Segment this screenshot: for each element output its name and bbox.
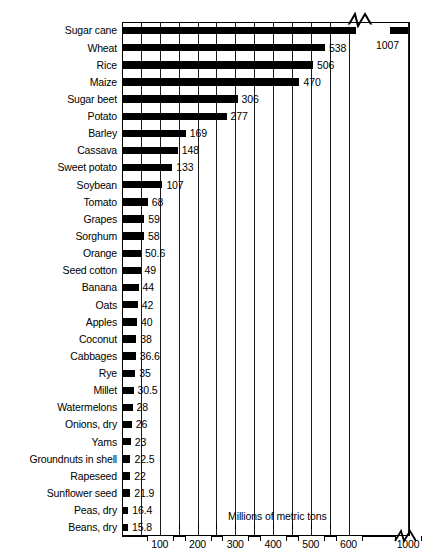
axis-tick-label: 400 bbox=[253, 539, 293, 550]
bar-value-label: 306 bbox=[242, 94, 259, 105]
bar-value-label: 22 bbox=[134, 471, 145, 482]
axis-tick-label: 100 bbox=[140, 539, 180, 550]
category-label: Sugar beet bbox=[67, 94, 117, 105]
bar-value-label: 22.5 bbox=[134, 454, 154, 465]
axis-minor-tick bbox=[273, 523, 274, 529]
bar bbox=[122, 472, 130, 479]
bar-value-label: 21.9 bbox=[134, 488, 154, 499]
bar bbox=[122, 370, 135, 377]
bar-value-label: 38 bbox=[140, 334, 151, 345]
bar-value-label: 538 bbox=[329, 43, 346, 54]
category-label: Oats bbox=[95, 300, 117, 311]
category-axis-labels: Sugar caneWheatRiceMaizeSugar beetPotato… bbox=[0, 22, 117, 536]
category-label: Peas, dry bbox=[74, 505, 117, 516]
bar bbox=[122, 301, 138, 308]
bar bbox=[122, 455, 130, 462]
axis-segment bbox=[324, 536, 336, 537]
axis-minor-tick bbox=[198, 523, 199, 529]
bar-value-label: 58 bbox=[148, 231, 159, 242]
bar bbox=[122, 438, 131, 445]
category-label: Groundnuts in shell bbox=[29, 454, 117, 465]
axis-segment bbox=[286, 536, 298, 537]
bar bbox=[122, 181, 162, 188]
axis-break-icon-bottom bbox=[393, 529, 419, 543]
bar bbox=[122, 318, 137, 325]
bar bbox=[122, 232, 144, 239]
axis-minor-tick bbox=[235, 523, 236, 529]
category-label: Onions, dry bbox=[65, 419, 117, 430]
bar-value-label: 23 bbox=[135, 437, 146, 448]
gridline-550 bbox=[330, 22, 331, 536]
category-label: Cabbages bbox=[70, 351, 117, 362]
bar bbox=[122, 215, 144, 222]
bar bbox=[122, 44, 325, 51]
bar-value-label: 44 bbox=[143, 282, 154, 293]
bar bbox=[122, 335, 136, 342]
bar-value-label: 133 bbox=[176, 162, 193, 173]
category-label: Cassava bbox=[77, 145, 117, 156]
axis-title: Millions of metric tons bbox=[228, 511, 327, 522]
category-label: Tomato bbox=[83, 197, 117, 208]
axis-tick-label: 600 bbox=[329, 539, 369, 550]
bar-value-label: 107 bbox=[166, 180, 183, 191]
bar bbox=[122, 421, 132, 428]
bar-value-label: 30.5 bbox=[138, 385, 158, 396]
bar-value-label: 169 bbox=[190, 128, 207, 139]
bar bbox=[122, 524, 128, 531]
bar bbox=[122, 404, 133, 411]
category-label: Grapes bbox=[83, 214, 117, 225]
bar bbox=[122, 130, 186, 137]
axis-minor-tick bbox=[254, 523, 255, 529]
bar-value-label: 470 bbox=[303, 77, 320, 88]
gridline-400 bbox=[273, 22, 274, 536]
bar-value-label: 59 bbox=[148, 214, 159, 225]
category-label: Sweet potato bbox=[58, 162, 118, 173]
axis-minor-tick bbox=[311, 523, 312, 529]
category-label: Rapeseed bbox=[70, 471, 117, 482]
bar-value-label: 1007 bbox=[376, 40, 399, 51]
category-label: Coconut bbox=[79, 334, 117, 345]
category-label: Beans, dry bbox=[68, 522, 117, 533]
bar bbox=[122, 147, 178, 154]
bar-value-label: 26 bbox=[136, 419, 147, 430]
category-label: Sugar cane bbox=[65, 25, 117, 36]
gridline-450 bbox=[292, 22, 293, 536]
axis-tick-label: 500 bbox=[291, 539, 331, 550]
bar-value-label: 28 bbox=[137, 402, 148, 413]
axis-tick-label: 300 bbox=[215, 539, 255, 550]
bar-value-label: 40 bbox=[141, 317, 152, 328]
bar-value-label: 16.4 bbox=[132, 505, 152, 516]
category-label: Apples bbox=[86, 317, 117, 328]
bar-value-label: 15.8 bbox=[132, 522, 152, 533]
gridline-500 bbox=[311, 22, 312, 536]
plot-area bbox=[122, 22, 410, 536]
bar-value-label: 148 bbox=[182, 145, 199, 156]
category-label: Rice bbox=[97, 60, 117, 71]
axis-break-icon bbox=[346, 12, 376, 28]
category-label: Sorghum bbox=[75, 231, 117, 242]
value-axis: 1002003004005006001000 bbox=[0, 536, 430, 560]
category-label: Yams bbox=[92, 437, 117, 448]
bar bbox=[122, 507, 128, 514]
bar bbox=[122, 250, 141, 257]
bar-continuation bbox=[390, 27, 408, 34]
axis-tick-label: 200 bbox=[178, 539, 218, 550]
bar bbox=[122, 164, 172, 171]
category-label: Orange bbox=[83, 248, 117, 259]
axis-minor-tick bbox=[179, 523, 180, 529]
axis-segment bbox=[362, 536, 396, 537]
bar bbox=[122, 113, 227, 120]
bar-value-label: 68 bbox=[152, 197, 163, 208]
plot-frame-right bbox=[409, 22, 410, 536]
bar bbox=[122, 61, 313, 68]
bar-value-label: 35 bbox=[139, 368, 150, 379]
category-label: Wheat bbox=[87, 43, 117, 54]
axis-segment bbox=[248, 536, 260, 537]
axis-segment bbox=[211, 536, 223, 537]
bar bbox=[122, 198, 148, 205]
category-label: Watermelons bbox=[57, 402, 117, 413]
bar bbox=[122, 387, 134, 394]
category-label: Rye bbox=[99, 368, 117, 379]
category-label: Maize bbox=[90, 77, 117, 88]
axis-minor-tick bbox=[292, 523, 293, 529]
